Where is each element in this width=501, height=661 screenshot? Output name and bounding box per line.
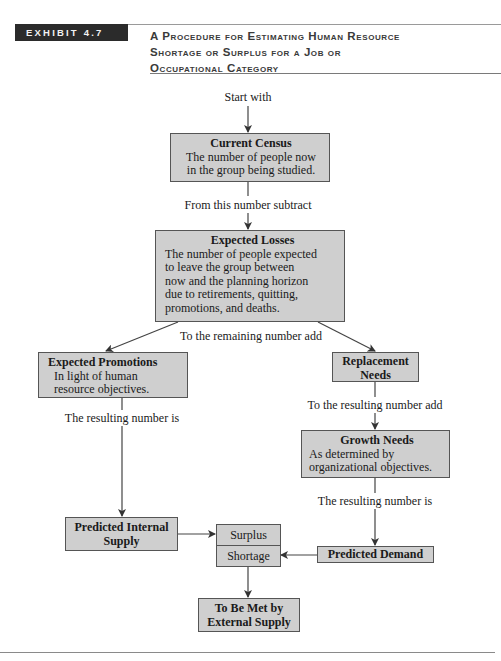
external-supply-title: To Be Met by — [201, 602, 297, 616]
bottom-rule — [0, 652, 495, 653]
external-supply-title: External Supply — [201, 616, 297, 630]
start-label: Start with — [198, 90, 298, 105]
left-resulting-label: The resulting number is — [57, 411, 187, 426]
current-census-box: Current Census The number of people now … — [170, 133, 330, 182]
expected-losses-body: to leave the group between — [165, 261, 340, 275]
expected-promotions-box: Expected Promotions In light of human re… — [38, 352, 188, 398]
expected-losses-body: promotions, and deaths. — [165, 302, 340, 316]
expected-promotions-body: In light of human — [54, 370, 183, 384]
surplus-shortage-box: Surplus Shortage — [216, 524, 281, 567]
external-supply-box: To Be Met by External Supply — [198, 598, 300, 632]
expected-losses-body: due to retirements, quitting, — [165, 288, 340, 302]
replacement-needs-title: Replacement — [335, 355, 416, 369]
predicted-demand-title: Predicted Demand — [320, 548, 431, 562]
remaining-add-label: To the remaining number add — [166, 329, 336, 344]
predicted-internal-supply-title: Supply — [68, 535, 175, 549]
replacement-needs-title: Needs — [335, 369, 416, 383]
current-census-body: in the group being studied. — [177, 164, 325, 178]
growth-needs-box: Growth Needs As determined by organizati… — [301, 430, 450, 478]
current-census-title: Current Census — [177, 137, 325, 151]
current-census-body: The number of people now — [177, 151, 325, 165]
growth-needs-body: organizational objectives. — [309, 461, 445, 475]
expected-losses-box: Expected Losses The number of people exp… — [155, 230, 345, 322]
replacement-needs-box: Replacement Needs — [332, 352, 419, 382]
predicted-internal-supply-title: Predicted Internal — [68, 521, 175, 535]
growth-needs-body: As determined by — [309, 448, 445, 462]
expected-promotions-title: Expected Promotions — [48, 356, 183, 370]
expected-promotions-body: resource objectives. — [54, 383, 183, 397]
predicted-demand-box: Predicted Demand — [317, 546, 434, 563]
subtract-label: From this number subtract — [160, 198, 336, 213]
right-resulting-label: The resulting number is — [310, 494, 440, 509]
resulting-add-label: To the resulting number add — [298, 398, 452, 413]
predicted-internal-supply-box: Predicted Internal Supply — [65, 517, 178, 551]
shortage-label: Shortage — [217, 546, 280, 566]
growth-needs-title: Growth Needs — [309, 434, 445, 448]
expected-losses-body: The number of people expected — [165, 248, 340, 262]
expected-losses-body: now and the planning horizon — [165, 275, 340, 289]
surplus-label: Surplus — [217, 525, 280, 546]
expected-losses-title: Expected Losses — [165, 234, 340, 248]
